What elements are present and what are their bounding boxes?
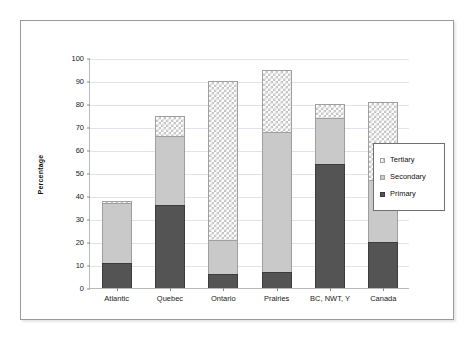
y-axis-tick — [87, 266, 90, 267]
y-axis-tick — [87, 220, 90, 221]
legend-item-tertiary: Tertiary — [380, 152, 438, 168]
x-axis-tick — [117, 288, 118, 291]
gridline — [90, 243, 409, 244]
y-axis-tick-label: 0 — [80, 285, 84, 293]
y-axis-tick-label: 50 — [76, 170, 84, 178]
y-axis-tick-label: 10 — [76, 262, 84, 270]
legend-label-primary: Primary — [390, 190, 416, 198]
bar-segment-tertiary[interactable] — [262, 70, 292, 132]
x-axis-tick — [223, 288, 224, 291]
legend-label-tertiary: Tertiary — [390, 156, 415, 164]
gridline — [90, 105, 409, 106]
y-axis-tick-label: 90 — [76, 78, 84, 86]
y-axis-tick — [87, 197, 90, 198]
y-axis-tick — [87, 289, 90, 290]
gridline — [90, 266, 409, 267]
y-axis-tick — [87, 151, 90, 152]
y-axis-tick-label: 20 — [76, 239, 84, 247]
x-axis-tick — [383, 288, 384, 291]
x-axis-label: Ontario — [197, 295, 250, 303]
bar-segment-primary[interactable] — [208, 274, 238, 288]
bar-segment-secondary[interactable] — [262, 132, 292, 272]
x-axis-label: Quebec — [143, 295, 196, 303]
bar-segment-secondary[interactable] — [155, 136, 185, 205]
gridline — [90, 59, 409, 60]
x-axis-tick — [170, 288, 171, 291]
bar-segment-primary[interactable] — [315, 164, 345, 288]
bar-segment-tertiary[interactable] — [208, 81, 238, 240]
gridline — [90, 151, 409, 152]
gridline — [90, 82, 409, 83]
y-axis-title: Percentage — [35, 59, 47, 289]
y-axis-tick-label: 100 — [71, 55, 84, 63]
bar-segment-secondary[interactable] — [315, 118, 345, 164]
y-axis-tick-label: 40 — [76, 193, 84, 201]
bar-segment-tertiary[interactable] — [155, 116, 185, 137]
y-axis-tick-label: 60 — [76, 147, 84, 155]
x-axis-label: Atlantic — [90, 295, 143, 303]
tertiary-swatch-icon — [380, 158, 385, 163]
bar-group[interactable] — [315, 104, 345, 288]
plot-area: 0102030405060708090100AtlanticQuebecOnta… — [89, 59, 409, 289]
y-axis-tick — [87, 82, 90, 83]
x-axis-label: Prairies — [250, 295, 303, 303]
y-axis-tick-label: 30 — [76, 216, 84, 224]
y-axis-tick-label: 70 — [76, 124, 84, 132]
x-axis-tick — [277, 288, 278, 291]
y-axis-tick — [87, 59, 90, 60]
y-axis-tick — [87, 128, 90, 129]
bar-segment-primary[interactable] — [262, 272, 292, 288]
y-axis-tick — [87, 105, 90, 106]
chart-legend: Tertiary Secondary Primary — [373, 143, 445, 211]
bar-group[interactable] — [208, 81, 238, 288]
y-axis-tick-label: 80 — [76, 101, 84, 109]
y-axis-tick — [87, 174, 90, 175]
chart-frame: Percentage 0102030405060708090100Atlanti… — [20, 20, 454, 320]
gridline — [90, 128, 409, 129]
gridline — [90, 220, 409, 221]
x-axis-label: BC, NWT, Y — [303, 295, 356, 303]
secondary-swatch-icon — [380, 175, 385, 180]
bar-segment-secondary[interactable] — [102, 203, 132, 263]
bar-segment-tertiary[interactable] — [315, 104, 345, 118]
x-axis-tick — [330, 288, 331, 291]
x-axis-label: Canada — [357, 295, 410, 303]
bar-segment-primary[interactable] — [102, 263, 132, 288]
bar-segment-secondary[interactable] — [208, 240, 238, 275]
legend-item-secondary: Secondary — [380, 169, 438, 185]
bar-group[interactable] — [102, 201, 132, 288]
bar-group[interactable] — [155, 116, 185, 288]
gridline — [90, 197, 409, 198]
y-axis-tick — [87, 243, 90, 244]
bar-segment-primary[interactable] — [155, 205, 185, 288]
y-axis-title-label: Percentage — [38, 154, 45, 194]
legend-label-secondary: Secondary — [390, 173, 426, 181]
legend-item-primary: Primary — [380, 186, 438, 202]
bar-segment-primary[interactable] — [368, 242, 398, 288]
primary-swatch-icon — [380, 192, 385, 197]
bar-group[interactable] — [262, 70, 292, 288]
gridline — [90, 174, 409, 175]
